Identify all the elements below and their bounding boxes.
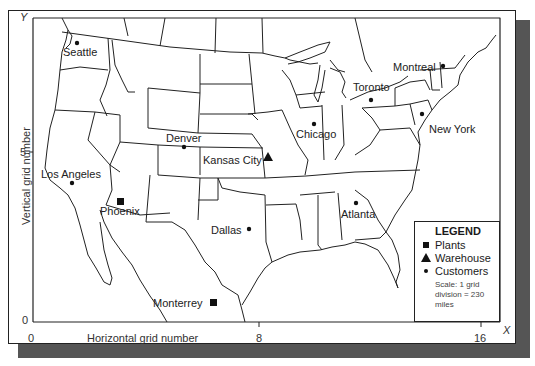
label-new-york: New York [429, 123, 475, 135]
label-los-angeles: Los Angeles [41, 168, 101, 180]
legend-title: LEGEND [435, 225, 495, 237]
y-axis-title: Vertical grid number [20, 116, 32, 236]
legend-item-customers: Customers [421, 264, 495, 277]
x-tick-8: 8 [256, 332, 262, 344]
kansas-city-triangle [263, 152, 273, 161]
chicago-dot [312, 122, 316, 126]
label-montreal: Montreal [393, 61, 436, 73]
legend-item-warehouse: Warehouse [421, 251, 495, 264]
legend-label: Plants [435, 239, 466, 251]
label-dallas: Dallas [211, 224, 242, 236]
label-phoenix: Phoenix [100, 205, 140, 217]
legend-label: Customers [435, 265, 488, 277]
label-kansas-city: Kansas City [203, 154, 262, 166]
y-tick-0: 0 [22, 314, 28, 326]
x-axis-title: Horizontal grid number [87, 332, 198, 344]
label-atlanta: Atlanta [341, 208, 375, 220]
y-axis-letter: Y [20, 11, 27, 23]
triangle-icon [421, 253, 431, 262]
dallas-dot [247, 227, 251, 231]
gulf-coast [320, 232, 400, 288]
legend-label: Warehouse [435, 252, 491, 264]
northern-border [62, 32, 318, 64]
toronto-dot [369, 98, 373, 102]
atlanta-dot [354, 201, 358, 205]
phoenix-square [117, 198, 124, 205]
scale-note: Scale: 1 grid division = 230 miles [435, 280, 497, 310]
x-axis-letter: X [503, 324, 510, 336]
label-seattle: Seattle [63, 46, 97, 58]
montreal-dot [441, 64, 445, 68]
square-icon [423, 242, 429, 248]
label-monterrey: Monterrey [153, 297, 203, 309]
circle-icon [424, 269, 428, 273]
label-toronto: Toronto [353, 81, 390, 93]
lake-michigan [314, 65, 325, 102]
new-york-dot [420, 112, 424, 116]
legend-item-plants: Plants [421, 238, 495, 251]
x-tick-16: 16 [474, 332, 486, 344]
x-tick-0: 0 [28, 332, 34, 344]
label-chicago: Chicago [296, 128, 336, 140]
legend-box: LEGEND Plants Warehouse Customers Scale:… [414, 221, 500, 322]
lake-huron [330, 68, 346, 98]
baja [75, 208, 112, 285]
denver-dot [182, 145, 186, 149]
seattle-dot [75, 41, 79, 45]
label-denver: Denver [166, 132, 201, 144]
los-angeles-dot [70, 181, 74, 185]
monterrey-square [210, 299, 217, 306]
